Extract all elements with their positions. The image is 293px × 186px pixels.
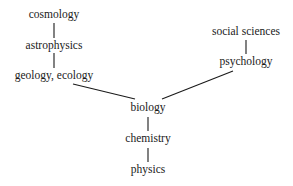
node-geology-ecology: geology, ecology	[15, 69, 93, 82]
node-physics: physics	[131, 163, 166, 176]
node-psychology: psychology	[219, 55, 272, 68]
node-social-sciences: social sciences	[212, 25, 280, 38]
node-astrophysics: astrophysics	[26, 39, 83, 52]
node-cosmology: cosmology	[29, 8, 79, 21]
edge-psychology-biology	[162, 71, 233, 99]
node-biology: biology	[130, 101, 165, 114]
edge-geology-biology	[73, 84, 135, 99]
node-chemistry: chemistry	[125, 132, 170, 145]
